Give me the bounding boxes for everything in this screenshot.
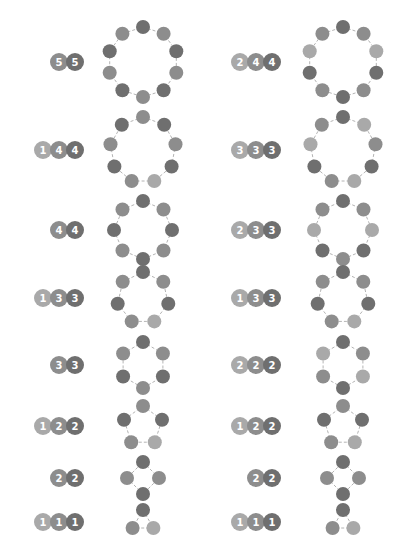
count-badge: 3	[50, 356, 68, 374]
ring-node-dark	[355, 413, 369, 427]
ring-node-mid	[336, 399, 350, 413]
ring-node-mid	[103, 66, 117, 80]
count-badge: 2	[247, 356, 265, 374]
ring-node-mid	[169, 137, 183, 151]
ring-node-dark	[357, 244, 371, 258]
count-badges: 222	[231, 356, 281, 374]
count-label: 2	[269, 421, 276, 432]
ring-node-mid	[316, 370, 330, 384]
ring-node-mid	[156, 347, 170, 361]
count-label: 4	[72, 145, 79, 156]
count-label: 1	[237, 517, 244, 528]
count-badges: 144	[34, 141, 84, 159]
ring-node-dark	[336, 455, 350, 469]
ring-node-mid	[356, 347, 370, 361]
count-label: 3	[269, 145, 276, 156]
ring-node-mid	[157, 27, 171, 41]
ring-node-dark	[111, 297, 125, 311]
count-badges: 122	[231, 417, 281, 435]
configuration-left-row-7: 22	[50, 455, 166, 501]
count-badge: 3	[66, 356, 84, 374]
necklace-ring	[311, 265, 376, 328]
count-label: 1	[56, 517, 63, 528]
ring-node-dark	[116, 370, 130, 384]
count-badges: 111	[34, 513, 84, 531]
ring-node-light	[147, 314, 161, 328]
ring-node-dark	[117, 413, 131, 427]
configuration-left-row-1: 55	[50, 20, 183, 104]
count-badge: 2	[231, 53, 249, 71]
configuration-right-row-4: 133	[231, 265, 375, 328]
count-badge: 4	[50, 221, 68, 239]
ring-node-dark	[136, 265, 150, 279]
ring-node-light	[365, 223, 379, 237]
necklace-ring	[326, 503, 361, 535]
count-badges: 55	[50, 53, 84, 71]
necklace-ring	[111, 265, 176, 328]
count-badge: 4	[66, 221, 84, 239]
count-badge: 3	[247, 289, 265, 307]
ring-node-light	[147, 174, 161, 188]
count-badge: 2	[247, 417, 265, 435]
configuration-left-row-2: 144	[34, 110, 183, 188]
ring-node-light	[304, 137, 318, 151]
count-label: 1	[40, 517, 47, 528]
count-label: 2	[56, 421, 63, 432]
ring-node-mid	[136, 381, 150, 395]
count-badges: 233	[231, 221, 281, 239]
count-label: 3	[72, 360, 79, 371]
count-badge: 4	[247, 53, 265, 71]
count-badge: 2	[50, 417, 68, 435]
ring-node-dark	[311, 297, 325, 311]
ring-node-mid	[116, 244, 130, 258]
count-badge: 4	[66, 141, 84, 159]
count-label: 3	[253, 145, 260, 156]
necklace-diagram: 5524414433344233133133332221221222222111…	[0, 0, 396, 548]
ring-node-dark	[169, 44, 183, 58]
ring-node-dark	[336, 110, 350, 124]
ring-node-dark	[103, 44, 117, 58]
count-label: 1	[40, 421, 47, 432]
ring-node-mid	[316, 275, 330, 289]
count-label: 1	[237, 421, 244, 432]
ring-node-dark	[165, 223, 179, 237]
ring-node-mid	[124, 435, 138, 449]
count-label: 2	[237, 57, 244, 68]
configuration-left-row-3: 44	[50, 194, 179, 266]
count-label: 1	[269, 517, 276, 528]
count-badge: 2	[50, 469, 68, 487]
count-badges: 44	[50, 221, 84, 239]
count-badge: 3	[247, 221, 265, 239]
count-badges: 22	[50, 469, 84, 487]
count-label: 3	[253, 293, 260, 304]
ring-node-dark	[336, 381, 350, 395]
necklace-ring	[104, 110, 183, 188]
ring-node-dark	[317, 413, 331, 427]
configuration-right-row-7: 22	[247, 455, 366, 501]
necklace-ring	[126, 503, 161, 535]
ring-node-mid	[136, 399, 150, 413]
count-badge: 3	[247, 141, 265, 159]
necklace-ring	[307, 194, 379, 266]
ring-node-light	[346, 521, 360, 535]
count-badge: 1	[34, 289, 52, 307]
count-label: 1	[40, 145, 47, 156]
count-label: 2	[253, 360, 260, 371]
count-badge: 3	[263, 289, 281, 307]
ring-node-dark	[107, 223, 121, 237]
count-label: 2	[237, 360, 244, 371]
count-badge: 1	[247, 513, 265, 531]
ring-node-dark	[136, 194, 150, 208]
configuration-left-row-5: 33	[50, 335, 170, 395]
configuration-right-row-3: 233	[231, 194, 379, 266]
count-badge: 3	[50, 289, 68, 307]
ring-node-mid	[369, 137, 383, 151]
ring-node-dark	[155, 413, 169, 427]
count-label: 4	[56, 225, 63, 236]
ring-node-light	[303, 44, 317, 58]
ring-node-dark	[336, 487, 350, 501]
count-badge: 3	[66, 289, 84, 307]
ring-node-mid	[357, 203, 371, 217]
count-badges: 22	[247, 469, 281, 487]
ring-node-mid	[152, 471, 166, 485]
